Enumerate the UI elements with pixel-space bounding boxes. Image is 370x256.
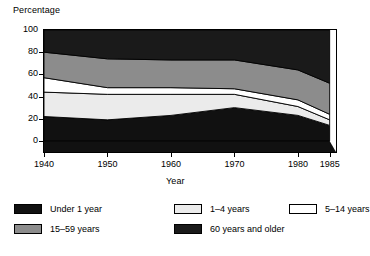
- x-tick-mark: [44, 153, 45, 157]
- y-tick-label: 100: [12, 24, 38, 34]
- x-tick-mark: [107, 153, 108, 157]
- legend-swatch-icon: [174, 204, 202, 214]
- x-tick-label: 1985: [313, 159, 347, 169]
- legend-label: 1–4 years: [210, 203, 250, 215]
- legend-label: 5–14 years: [325, 203, 370, 215]
- y-tick-label: 20: [12, 113, 38, 123]
- x-tick-mark: [330, 153, 331, 157]
- legend-label: Under 1 year: [50, 203, 102, 215]
- y-axis-title: Percentage: [13, 5, 60, 15]
- y-tick-label: 60: [12, 68, 38, 78]
- x-tick-label: 1960: [154, 159, 188, 169]
- stacked-area-series: [44, 30, 336, 152]
- legend-label: 60 years and older: [210, 223, 285, 235]
- y-tick-label: 40: [12, 91, 38, 101]
- x-tick-mark: [171, 153, 172, 157]
- legend-swatch-icon: [14, 224, 42, 234]
- x-tick-label: 1950: [90, 159, 124, 169]
- legend-label: 15–59 years: [50, 223, 100, 235]
- x-tick-label: 1940: [27, 159, 61, 169]
- legend-swatch-icon: [289, 204, 317, 214]
- x-tick-label: 1970: [217, 159, 251, 169]
- x-tick-mark: [234, 153, 235, 157]
- plot-area: [43, 29, 337, 153]
- y-tick-label: 80: [12, 46, 38, 56]
- y-tick-label: 0: [12, 135, 38, 145]
- x-tick-label: 1980: [281, 159, 315, 169]
- x-tick-mark: [298, 153, 299, 157]
- legend-swatch-icon: [14, 204, 42, 214]
- chart-legend: Under 1 year1–4 years5–14 years15–59 yea…: [14, 203, 359, 248]
- x-axis-title: Year: [166, 176, 185, 186]
- legend-swatch-icon: [174, 224, 202, 234]
- area-band-underflow: [44, 141, 336, 152]
